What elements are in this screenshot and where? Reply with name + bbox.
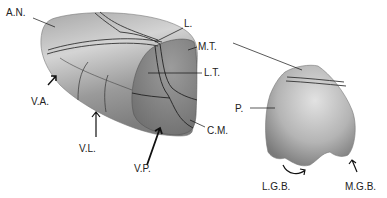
thalamus-body (41, 12, 197, 136)
pulvinar (266, 65, 356, 166)
thalamus-diagram: A.N. L. M.T. L.T. V.A. V.L. V.P. C.M. P.… (0, 0, 387, 198)
label-lt: L.T. (204, 67, 220, 78)
label-an: A.N. (6, 7, 25, 18)
label-l: L. (184, 18, 192, 29)
label-va: V.A. (31, 96, 49, 107)
label-mt: M.T. (198, 41, 217, 52)
label-vp: V.P. (134, 163, 151, 174)
label-p: P. (235, 103, 243, 114)
label-mgb: M.G.B. (345, 181, 376, 192)
label-lgb: L.G.B. (262, 181, 290, 192)
label-vl: V.L. (79, 143, 96, 154)
label-cm: C.M. (207, 125, 228, 136)
